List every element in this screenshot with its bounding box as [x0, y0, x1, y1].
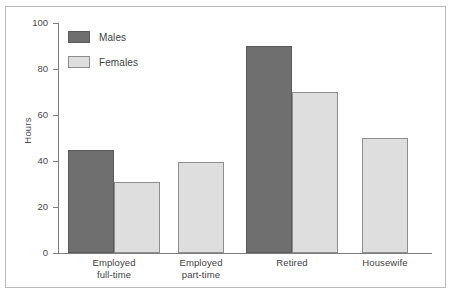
legend-entry-males[interactable]: Males: [68, 27, 138, 47]
y-tick-label-60: 60: [8, 110, 48, 120]
y-tick-label-20: 20: [8, 202, 48, 212]
chart-legend: Males Females: [68, 27, 138, 77]
y-tick-label-40: 40: [8, 156, 48, 166]
y-tick-mark-0: [53, 253, 58, 254]
bar-chart-plot-area: Hours 100 80 60 40 20 0 Employedfull-tim…: [6, 7, 447, 289]
y-tick-label-100: 100: [8, 18, 48, 28]
y-tick-mark-100: [53, 23, 58, 24]
bar-employed-part-time-females: [178, 162, 224, 253]
y-tick-mark-40: [53, 161, 58, 162]
bar-employed-full-time-males: [68, 150, 114, 254]
bar-employed-full-time-females: [114, 182, 160, 253]
y-axis-line: [58, 23, 59, 254]
y-tick-label-0: 0: [8, 248, 48, 258]
legend-swatch-females-icon: [68, 56, 90, 68]
legend-entry-females[interactable]: Females: [68, 52, 138, 72]
legend-label-males: Males: [99, 32, 126, 43]
y-tick-mark-20: [53, 207, 58, 208]
bar-housewife-females: [362, 138, 408, 253]
legend-label-females: Females: [99, 57, 138, 68]
figure-frame: Hours 100 80 60 40 20 0 Employedfull-tim…: [5, 6, 446, 288]
bar-retired-females: [292, 92, 338, 253]
legend-swatch-males-icon: [68, 31, 90, 43]
bar-retired-males: [246, 46, 292, 253]
y-tick-mark-60: [53, 115, 58, 116]
y-tick-label-80: 80: [8, 64, 48, 74]
category-label-housewife: Housewife: [330, 257, 440, 269]
y-tick-mark-80: [53, 69, 58, 70]
x-axis-line: [58, 253, 432, 254]
